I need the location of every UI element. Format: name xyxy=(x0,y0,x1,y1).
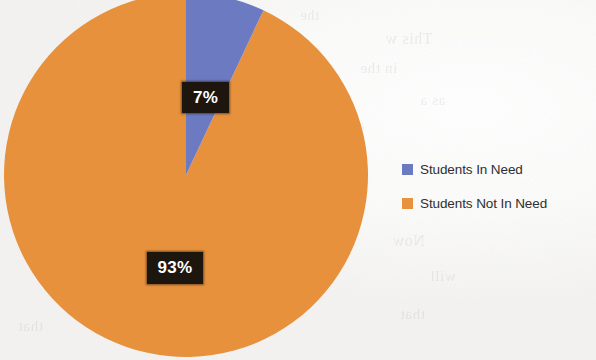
legend-swatch-icon xyxy=(402,198,413,209)
data-label-students-not-in-need: 93% xyxy=(147,252,203,284)
legend-item-students-not-in-need[interactable]: Students Not In Need xyxy=(402,186,596,220)
legend-label: Students In Need xyxy=(420,162,523,177)
chart-legend: Students In Need Students Not In Need xyxy=(402,152,596,220)
legend-item-students-in-need[interactable]: Students In Need xyxy=(402,152,596,186)
legend-swatch-icon xyxy=(402,164,413,175)
data-label-students-in-need: 7% xyxy=(182,82,229,113)
legend-label: Students Not In Need xyxy=(420,196,547,211)
